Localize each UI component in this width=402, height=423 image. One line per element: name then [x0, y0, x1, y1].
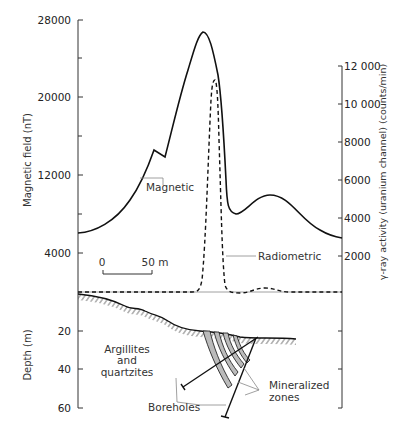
- left-tick-label: 20000: [38, 91, 71, 103]
- right-tick-label: 12 000: [344, 60, 381, 72]
- left-tick-label: 28000: [38, 14, 71, 26]
- right-axis-title: γ-ray activity (uranium channel) (counts…: [377, 64, 388, 280]
- magnetic-label: Magnetic: [146, 181, 194, 193]
- rock-label-line2: and: [117, 354, 137, 366]
- left-tick-label: 4000: [44, 247, 71, 259]
- scale-end-label: 50 m: [142, 256, 169, 268]
- right-tick-label: 6000: [344, 174, 371, 186]
- right-tick-label: 2000: [344, 250, 371, 262]
- geophysical-profile-figure: 28000 20000 12000 4000 Magnetic field (n…: [0, 0, 402, 423]
- depth-tick-label: 60: [58, 402, 71, 414]
- left-axis: 28000 20000 12000 4000 Magnetic field (n…: [22, 14, 83, 292]
- depth-tick-label: 40: [58, 363, 71, 375]
- mineralized-label-line1: Mineralized: [269, 379, 329, 391]
- depth-tick-label: 20: [58, 325, 71, 337]
- right-tick-label: 10 000: [344, 98, 381, 110]
- scale-start-label: 0: [99, 256, 106, 268]
- mineralized-label-line2: zones: [269, 391, 300, 403]
- right-tick-label: 8000: [344, 136, 371, 148]
- right-axis: 12 000 10 000 8000 6000 4000 2000 γ-ray …: [338, 60, 388, 408]
- boreholes-label: Boreholes: [148, 401, 200, 413]
- left-axis-title: Magnetic field (nT): [22, 113, 33, 207]
- depth-axis: 20 40 60 Depth (m): [22, 292, 83, 414]
- right-tick-label: 4000: [344, 212, 371, 224]
- scale-bar: 0 50 m: [99, 256, 169, 274]
- rock-label-line3: quartzites: [101, 366, 154, 378]
- radiometric-label: Radiometric: [258, 250, 322, 262]
- depth-axis-title: Depth (m): [22, 329, 33, 380]
- left-tick-label: 12000: [38, 169, 71, 181]
